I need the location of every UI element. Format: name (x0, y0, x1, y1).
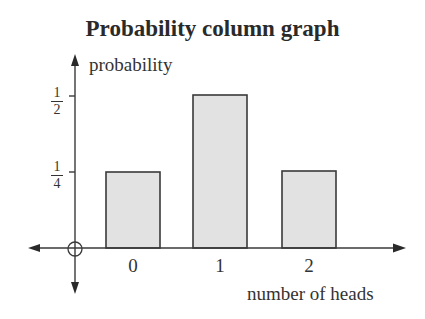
chart-plot (0, 0, 425, 319)
x-axis-left-arrow-icon (28, 244, 40, 252)
bar-1 (193, 95, 247, 248)
y-axis-up-arrow-icon (71, 54, 79, 66)
y-axis-down-arrow-icon (71, 282, 79, 294)
bar-0 (106, 172, 160, 248)
bar-2 (282, 171, 336, 248)
x-axis-right-arrow-icon (393, 244, 406, 253)
